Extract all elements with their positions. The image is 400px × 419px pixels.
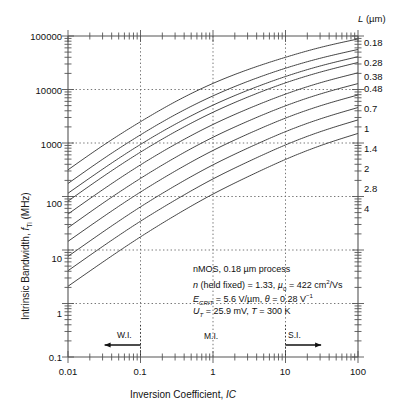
x-tick-label-0.1: 0.1 — [110, 366, 170, 377]
annotation-line-1: nMOS, 0.18 µm process — [193, 264, 290, 274]
x-axis-title: Inversion Coefficient, IC — [130, 389, 236, 400]
annotation-line-4: UT = 25.9 mV, T = 300 K — [193, 306, 290, 318]
legend-header-unit: (µm) — [363, 13, 385, 24]
legend-header: L (µm) — [358, 13, 386, 24]
ann3-crit: CRIT — [199, 299, 213, 306]
y-tick-label-10000: 10000 — [2, 85, 62, 96]
legend-label-0.18: 0.18 — [364, 37, 383, 48]
legend-label-0.48: 0.48 — [364, 83, 383, 94]
x-axis-title-symbol: IC — [226, 389, 236, 400]
region-label-mi: M.I. — [204, 331, 218, 341]
y-axis-title-text: Intrinsic Bandwidth, — [20, 231, 31, 321]
legend-label-1.4: 1.4 — [364, 143, 377, 154]
x-tick-label-0.01: 0.01 — [38, 366, 98, 377]
y-axis-title: Intrinsic Bandwidth, fTi (MHz) — [20, 192, 33, 320]
annotation-line-3: ECRIT = 5.6 V/µm, θ = 0.28 V−1 — [193, 292, 313, 306]
y-tick-label-1000: 1000 — [2, 139, 62, 150]
region-label-wi: W.I. — [117, 330, 132, 340]
y-tick-label-0.1: 0.1 — [2, 352, 62, 363]
x-tick-label-10: 10 — [255, 366, 315, 377]
y-axis-title-symbol: f — [20, 228, 31, 231]
legend-label-1: 1 — [364, 123, 369, 134]
ann2-held: (held fixed) = 1.33, — [198, 280, 278, 290]
ann2-val: = 422 cm — [286, 280, 326, 290]
legend-label-2: 2 — [364, 163, 369, 174]
annotation-line-2: n (held fixed) = 1.33, µ0 = 422 cm2/Vs — [193, 278, 343, 292]
y-axis-title-subscript: Ti — [26, 222, 33, 227]
x-axis-title-text: Inversion Coefficient, — [130, 389, 226, 400]
x-tick-label-100: 100 — [328, 366, 388, 377]
ann3-sup: −1 — [306, 292, 313, 299]
legend-label-0.7: 0.7 — [364, 103, 377, 114]
legend-label-0.28: 0.28 — [364, 57, 383, 68]
legend-label-4: 4 — [364, 203, 369, 214]
legend-label-0.38: 0.38 — [364, 71, 383, 82]
x-tick-label-1: 1 — [183, 366, 243, 377]
ann3-theta-val: = 0.28 V — [270, 294, 306, 304]
ann4-val: = 25.9 mV, — [203, 306, 251, 316]
ann3-val: = 5.6 V/µm, — [213, 294, 264, 304]
region-label-si: S.I. — [288, 330, 301, 340]
y-axis-title-unit: (MHz) — [20, 192, 31, 222]
ann4-T-val: = 300 K — [257, 306, 291, 316]
legend-label-2.8: 2.8 — [364, 183, 377, 194]
annotation-line-1-text: nMOS, 0.18 µm process — [193, 264, 290, 274]
ann2-unit: /Vs — [330, 280, 343, 290]
y-tick-label-100000: 100000 — [2, 31, 62, 42]
